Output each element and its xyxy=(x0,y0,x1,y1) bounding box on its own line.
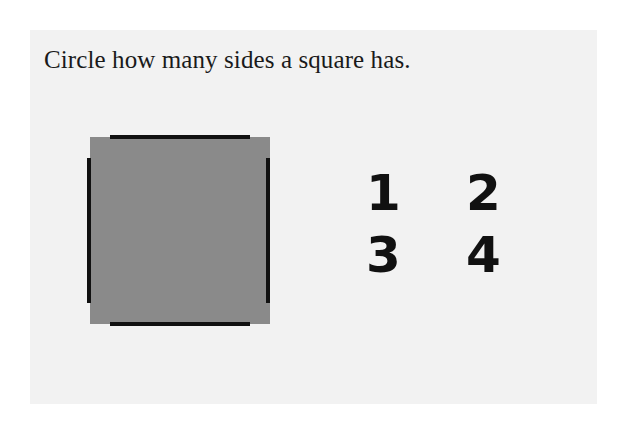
choice-3[interactable]: 3 xyxy=(360,224,460,286)
square-edge-left xyxy=(87,158,91,303)
square-edge-top xyxy=(110,135,250,139)
worksheet-panel: Circle how many sides a square has. 1 2 … xyxy=(30,30,597,404)
choice-1[interactable]: 1 xyxy=(360,162,460,224)
square-edge-bottom xyxy=(110,322,250,326)
choice-4[interactable]: 4 xyxy=(460,224,510,286)
square-shape xyxy=(90,137,270,324)
square-edge-right xyxy=(266,158,270,303)
answer-choices: 1 2 3 4 xyxy=(360,162,510,287)
question-prompt: Circle how many sides a square has. xyxy=(44,46,411,74)
choice-2[interactable]: 2 xyxy=(460,162,510,224)
